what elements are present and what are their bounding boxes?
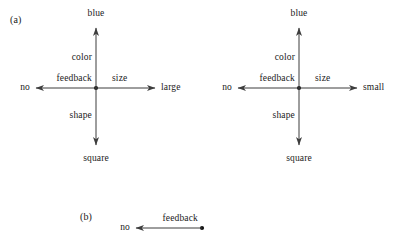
left-cross-diagram-terminal-label-right: large xyxy=(161,82,181,92)
left-cross-diagram-terminal-label-left: no xyxy=(20,82,30,92)
single-arrow-diagram-edge-label-left: feedback xyxy=(163,213,198,223)
right-cross-diagram-edge-label-up: color xyxy=(275,52,295,62)
right-cross-diagram-terminal-label-left: no xyxy=(222,82,232,92)
left-cross-diagram-edge-label-up: color xyxy=(72,52,92,62)
figure-canvas: (a) (b) colorbluesizelargefeedbacknoshap… xyxy=(0,0,408,242)
left-cross-diagram-terminal-label-up: blue xyxy=(88,8,105,18)
left-cross-diagram-edge-label-left: feedback xyxy=(57,73,92,83)
right-cross-diagram-terminal-label-down: square xyxy=(286,153,312,163)
arrow-layer xyxy=(0,0,408,242)
right-cross-diagram-edge-label-left: feedback xyxy=(260,73,295,83)
left-cross-diagram-edge-label-down: shape xyxy=(70,110,92,120)
right-cross-diagram-terminal-label-right: small xyxy=(363,82,384,92)
left-cross-diagram-edge-label-right: size xyxy=(112,73,127,83)
left-cross-diagram-terminal-label-down: square xyxy=(83,153,109,163)
single-arrow-diagram-terminal-label-left: no xyxy=(120,222,130,232)
right-cross-diagram-edge-label-right: size xyxy=(315,73,330,83)
right-cross-diagram-terminal-label-up: blue xyxy=(291,8,308,18)
right-cross-diagram-edge-label-down: shape xyxy=(273,110,295,120)
